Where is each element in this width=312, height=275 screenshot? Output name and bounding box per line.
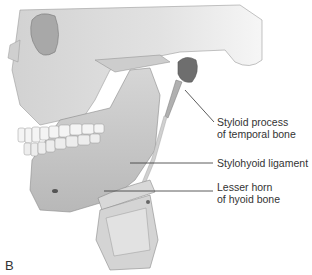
- anatomy-figure: Styloid process of temporal bone Stylohy…: [0, 0, 312, 275]
- label-styloid-process: Styloid process of temporal bone: [217, 116, 296, 140]
- panel-letter: B: [5, 258, 14, 273]
- styloid-process: [165, 80, 182, 118]
- external-acoustic-meatus: [178, 57, 197, 82]
- pointer-styloid: [185, 90, 214, 122]
- label-line: Lesser horn: [217, 181, 280, 193]
- label-line: Styloid process: [217, 116, 296, 128]
- label-lesser-horn: Lesser horn of hyoid bone: [217, 181, 280, 205]
- label-line: Stylohyoid ligament: [217, 157, 308, 169]
- label-line: of temporal bone: [217, 128, 296, 140]
- label-line: of hyoid bone: [217, 193, 280, 205]
- label-stylohyoid-ligament: Stylohyoid ligament: [217, 157, 308, 169]
